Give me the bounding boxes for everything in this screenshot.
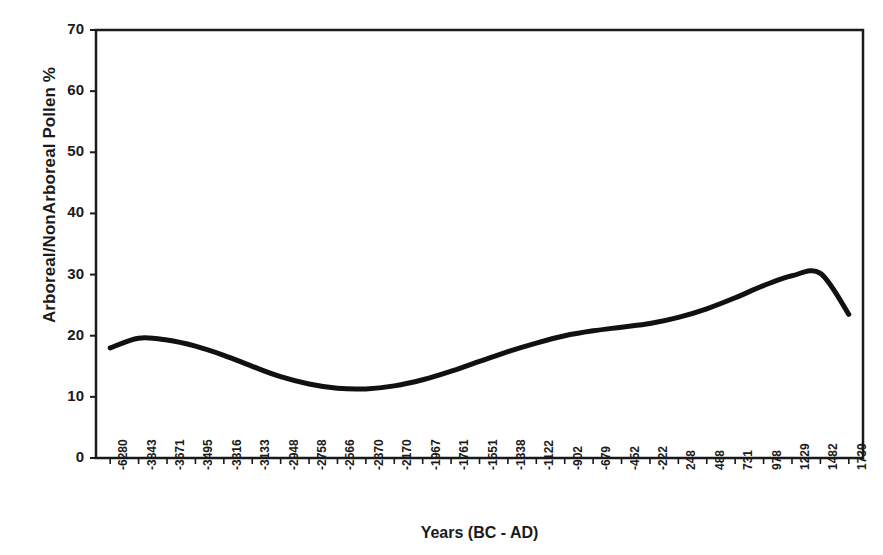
x-tick-label: -2758 [315, 439, 329, 470]
y-tick-label: 10 [40, 387, 84, 404]
x-tick-label: -2948 [287, 439, 301, 470]
x-tick-label: -3316 [230, 439, 244, 470]
y-tick-label: 70 [40, 20, 84, 37]
x-tick-label: -3843 [145, 439, 159, 470]
x-tick-label: -3133 [258, 439, 272, 470]
x-tick-label: -1338 [514, 439, 528, 470]
y-tick-label: 20 [40, 326, 84, 343]
x-axis-title: Years (BC - AD) [96, 524, 863, 542]
x-tick-label: 1482 [826, 443, 840, 470]
y-tick-label: 50 [40, 142, 84, 159]
x-tick-label: -6280 [116, 439, 130, 470]
y-tick-label: 60 [40, 81, 84, 98]
x-tick-label: -2370 [372, 439, 386, 470]
x-tick-label: -2566 [343, 439, 357, 470]
x-tick-label: -3495 [201, 439, 215, 470]
x-tick-label: 1229 [798, 443, 812, 470]
x-tick-label: -452 [628, 446, 642, 470]
x-tick-label: -1761 [457, 439, 471, 470]
x-tick-label: 1739 [855, 443, 869, 470]
x-tick-label: -2170 [400, 439, 414, 470]
x-tick-label: 731 [741, 450, 755, 470]
x-tick-label: -1967 [429, 439, 443, 470]
x-tick-label: -902 [571, 446, 585, 470]
x-tick-label: -222 [656, 446, 670, 470]
x-tick-label: 978 [770, 450, 784, 470]
x-tick-label: -3671 [173, 439, 187, 470]
plot-frame [96, 30, 863, 458]
y-tick-label: 0 [40, 448, 84, 465]
y-tick-label: 40 [40, 203, 84, 220]
plot-area-svg [0, 0, 883, 555]
x-tick-label: -1551 [486, 439, 500, 470]
x-tick-label: -679 [599, 446, 613, 470]
x-tick-label: 488 [713, 450, 727, 470]
pollen-percentage-chart: Arboreal/NonArboreal Pollen % 0102030405… [0, 0, 883, 555]
x-tick-label: -1122 [542, 440, 556, 470]
y-tick-label: 30 [40, 265, 84, 282]
x-tick-label: 248 [684, 450, 698, 470]
